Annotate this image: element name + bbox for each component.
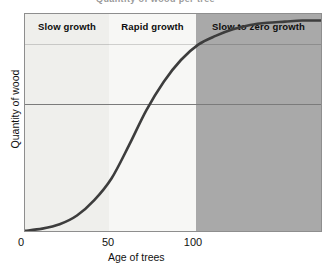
y-axis-label: Quantity of wood xyxy=(9,39,21,179)
x-tick-100: 100 xyxy=(179,236,207,248)
x-axis-label: Age of trees xyxy=(108,251,248,263)
x-tick-50: 50 xyxy=(96,236,120,248)
plot-area: Slow growth Rapid growth Slow to zero gr… xyxy=(24,13,322,232)
figure-container: Quantity of wood per tree Slow growth Ra… xyxy=(0,0,332,266)
figure-title: Quantity of wood per tree xyxy=(96,0,276,4)
growth-curve-svg xyxy=(25,14,322,232)
x-tick-0: 0 xyxy=(10,236,32,248)
growth-curve-path xyxy=(25,20,322,230)
